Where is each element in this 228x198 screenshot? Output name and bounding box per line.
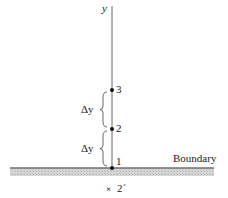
point-marker-icon xyxy=(110,127,114,131)
finite-difference-boundary-diagram: Boundary y Δy Δy 3 2 xyxy=(0,0,228,198)
boundary: Boundary xyxy=(10,152,217,176)
point-label-3: 3 xyxy=(116,83,122,95)
ghost-point-2-prime: × 2´ xyxy=(106,182,127,194)
point-marker-icon xyxy=(110,88,114,92)
point-label-2: 2 xyxy=(116,122,122,134)
spacing-label-lower: Δy xyxy=(81,142,94,154)
brace-icon xyxy=(100,92,107,127)
spacing-label-upper: Δy xyxy=(81,103,94,115)
spacing-brace-upper: Δy xyxy=(81,92,107,127)
delta-symbol: Δy xyxy=(81,103,94,115)
ghost-point-label: 2´ xyxy=(117,182,127,194)
spacing-brace-lower: Δy xyxy=(81,131,107,166)
point-label-1: 1 xyxy=(116,155,122,167)
boundary-label: Boundary xyxy=(173,152,217,164)
y-axis-label: y xyxy=(101,2,107,14)
delta-symbol: Δy xyxy=(81,142,94,154)
cross-marker-icon: × xyxy=(106,184,111,194)
brace-icon xyxy=(100,131,107,166)
point-marker-icon xyxy=(110,166,114,170)
